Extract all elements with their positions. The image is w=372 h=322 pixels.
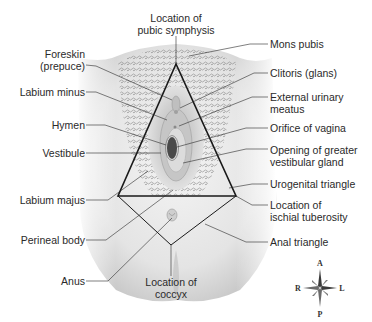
compass-rose: A P R L <box>295 259 345 319</box>
label-coccyx: Location of coccyx <box>131 276 211 300</box>
compass-anterior: A <box>317 259 323 268</box>
label-greater-vestibular-gland: Opening of greater vestibular gland <box>270 144 358 168</box>
label-ischial-tuberosity: Location of ischial tuberosity <box>270 199 348 223</box>
label-vestibule: Vestibule <box>42 147 85 159</box>
urinary-meatus-spot <box>174 126 177 129</box>
perineum-diagram: A P R L Location of pubic symphysis Fore… <box>0 0 372 322</box>
label-labium-majus: Labium majus <box>20 194 85 206</box>
clitoris-glans <box>174 110 178 114</box>
label-mons-pubis: Mons pubis <box>270 38 324 50</box>
label-urogenital-triangle: Urogenital triangle <box>270 178 355 190</box>
label-orifice-vagina: Orifice of vagina <box>270 122 346 134</box>
label-labium-minus: Labium minus <box>20 86 85 98</box>
label-anus: Anus <box>61 275 85 287</box>
compass-right: R <box>295 284 301 293</box>
label-urinary-meatus: External urinary meatus <box>270 91 344 115</box>
vaginal-orifice <box>167 137 177 159</box>
label-hymen: Hymen <box>52 119 85 131</box>
label-foreskin: Foreskin (prepuce) <box>40 48 85 72</box>
label-anal-triangle: Anal triangle <box>270 236 328 248</box>
compass-left: L <box>339 284 344 293</box>
label-clitoris: Clitoris (glans) <box>270 67 337 79</box>
anus-shape <box>167 209 177 221</box>
label-perineal-body: Perineal body <box>21 234 85 246</box>
prepuce <box>172 96 180 112</box>
label-pubic-symphysis: Location of pubic symphysis <box>136 12 216 36</box>
compass-posterior: P <box>318 310 323 319</box>
